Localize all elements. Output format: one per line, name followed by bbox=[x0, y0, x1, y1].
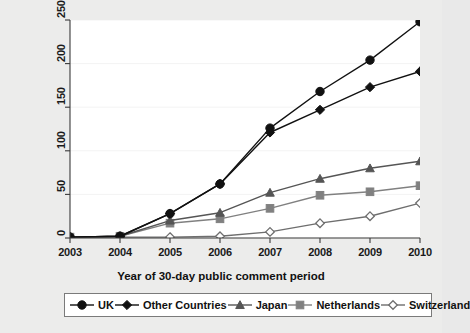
legend-label: Other Countries bbox=[143, 299, 227, 311]
data-point bbox=[366, 212, 375, 221]
legend-marker-filled-diamond-icon bbox=[114, 299, 140, 311]
series-line bbox=[70, 71, 420, 237]
legend-item-japan[interactable]: Japan bbox=[227, 299, 288, 311]
legend-label: UK bbox=[98, 299, 114, 311]
series-line bbox=[70, 22, 420, 237]
data-point bbox=[389, 301, 398, 310]
x-axis-label: Year of 30-day public comment period bbox=[0, 270, 442, 282]
legend-item-switzerland[interactable]: Switzerland bbox=[380, 299, 470, 311]
series-line bbox=[70, 161, 420, 237]
data-point bbox=[122, 300, 131, 309]
legend-item-other-countries[interactable]: Other Countries bbox=[114, 299, 227, 311]
data-point bbox=[365, 83, 374, 92]
x-tick-label: 2006 bbox=[200, 246, 240, 258]
data-point bbox=[216, 180, 224, 188]
data-point bbox=[266, 228, 275, 237]
legend-label: Switzerland bbox=[409, 299, 470, 311]
data-point bbox=[316, 191, 324, 199]
x-tick-label: 2010 bbox=[400, 246, 440, 258]
data-point bbox=[216, 208, 225, 216]
x-tick-label: 2004 bbox=[100, 246, 140, 258]
legend-item-netherlands[interactable]: Netherlands bbox=[287, 299, 380, 311]
x-tick-label: 2007 bbox=[250, 246, 290, 258]
data-point bbox=[366, 56, 374, 64]
data-point bbox=[366, 188, 374, 196]
legend-marker-filled-square-icon bbox=[287, 299, 313, 311]
data-point bbox=[266, 205, 274, 213]
data-point bbox=[416, 182, 420, 190]
data-point bbox=[416, 199, 420, 208]
data-point bbox=[316, 219, 325, 228]
legend-marker-open-diamond-icon bbox=[380, 299, 406, 311]
data-point bbox=[78, 301, 86, 309]
legend-label: Japan bbox=[256, 299, 288, 311]
legend-marker-filled-triangle-icon bbox=[227, 299, 253, 311]
data-point bbox=[166, 209, 174, 217]
plot-area bbox=[70, 20, 420, 238]
x-tick-label: 2005 bbox=[150, 246, 190, 258]
data-point bbox=[216, 232, 225, 238]
x-tick-label: 2009 bbox=[350, 246, 390, 258]
data-point bbox=[416, 157, 420, 165]
data-point bbox=[116, 232, 124, 238]
data-point bbox=[315, 105, 324, 114]
data-point bbox=[166, 233, 175, 238]
chart-legend: UKOther CountriesJapanNetherlandsSwitzer… bbox=[64, 293, 432, 317]
legend-label: Netherlands bbox=[316, 299, 380, 311]
x-tick-label: 2008 bbox=[300, 246, 340, 258]
chart-svg bbox=[70, 20, 420, 238]
data-point bbox=[297, 301, 305, 309]
data-point bbox=[415, 67, 420, 76]
x-tick-label: 2003 bbox=[50, 246, 90, 258]
legend-marker-filled-circle-icon bbox=[69, 299, 95, 311]
data-point bbox=[266, 124, 274, 132]
legend-item-uk[interactable]: UK bbox=[69, 299, 114, 311]
data-point bbox=[316, 87, 324, 95]
